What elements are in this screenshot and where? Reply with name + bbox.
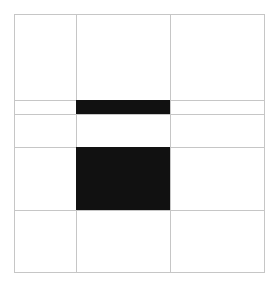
grid-figure	[14, 14, 265, 273]
black-bar-upper	[76, 100, 170, 114]
row-divider-2	[14, 114, 265, 115]
black-block-center	[76, 147, 170, 210]
frame-bottom-edge	[14, 272, 265, 273]
frame-right-edge	[264, 14, 265, 273]
column-divider-1	[76, 14, 77, 273]
frame-left-edge	[14, 14, 15, 273]
column-divider-2	[170, 14, 171, 273]
composition-canvas	[0, 0, 277, 292]
frame-top-edge	[14, 14, 265, 15]
row-divider-4	[14, 210, 265, 211]
